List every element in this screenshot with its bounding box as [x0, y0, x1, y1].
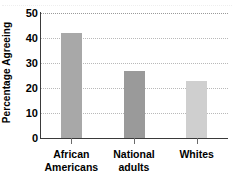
y-axis-tick-label: 10: [14, 108, 38, 119]
bar: [61, 33, 82, 138]
x-axis-tick: [197, 138, 198, 144]
bar: [186, 81, 207, 139]
plot-area: [40, 13, 228, 138]
y-axis-tick-label: 30: [14, 58, 38, 69]
x-axis-category-label-line: Americans: [35, 161, 107, 174]
x-axis-category-labels: AfricanAmericansNationaladultsWhites: [40, 148, 234, 181]
y-axis-title-text: Percentage Agreeing: [2, 22, 13, 124]
y-axis-tick-label: 50: [14, 8, 38, 19]
y-axis-tick-label: 0: [14, 133, 38, 144]
y-axis-tick-label: 40: [14, 33, 38, 44]
x-axis-tick: [134, 138, 135, 144]
y-axis-title: Percentage Agreeing: [0, 0, 14, 145]
bar-chart: Percentage Agreeing 01020304050 AfricanA…: [0, 0, 234, 181]
x-axis-category-label-line: National: [98, 148, 170, 161]
x-axis-tick: [71, 138, 72, 144]
x-axis-category-label-line: adults: [98, 161, 170, 174]
x-axis-category-label: AfricanAmericans: [35, 148, 107, 174]
x-axis-ticks: [40, 138, 228, 145]
x-axis-category-label: Whites: [161, 148, 233, 161]
bar: [124, 71, 145, 139]
gridline: [41, 13, 228, 14]
y-axis-line: [40, 12, 41, 139]
y-axis-tick-label: 20: [14, 83, 38, 94]
x-axis-category-label-line: African: [35, 148, 107, 161]
x-axis-category-label: Nationaladults: [98, 148, 170, 174]
x-axis-category-label-line: Whites: [161, 148, 233, 161]
